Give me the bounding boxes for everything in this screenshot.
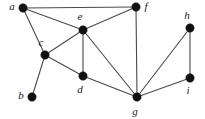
vertex-label-f: f — [144, 0, 149, 12]
graph-vertex-h — [186, 24, 194, 32]
graph-vertex-d — [79, 72, 87, 80]
graph-vertex-f — [132, 3, 140, 11]
graph-figure: abcdefghi — [0, 0, 205, 119]
vertex-label-d: d — [77, 83, 83, 95]
graph-vertex-b — [28, 93, 36, 101]
vertex-label-g: g — [132, 105, 138, 117]
graph-edge-f-g — [136, 7, 137, 97]
graph-canvas: abcdefghi — [0, 0, 205, 119]
vertex-label-a: a — [9, 0, 15, 12]
graph-edge-c-e — [45, 30, 83, 55]
vertex-label-i: i — [186, 84, 189, 96]
vertex-label-h: h — [184, 9, 190, 21]
graph-vertex-c — [41, 51, 49, 59]
graph-edge-g-h — [137, 28, 190, 97]
label-layer: abcdefghi — [9, 0, 190, 117]
graph-edge-c-d — [45, 55, 83, 76]
graph-vertex-g — [133, 93, 141, 101]
graph-edge-a-f — [23, 7, 136, 8]
vertex-label-b: b — [18, 89, 24, 101]
graph-edge-e-f — [83, 7, 136, 30]
vertex-label-c: c — [39, 36, 44, 48]
graph-vertex-i — [186, 74, 194, 82]
vertex-label-e: e — [78, 10, 83, 22]
graph-edge-c-b — [32, 55, 45, 97]
graph-vertex-a — [19, 4, 27, 12]
graph-vertex-e — [79, 26, 87, 34]
